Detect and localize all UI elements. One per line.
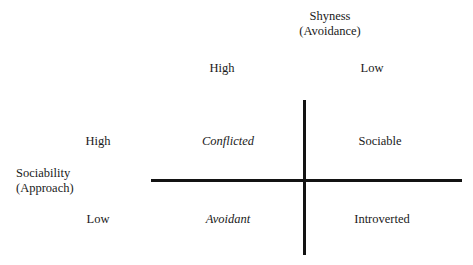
shyness-level-high-label: High [210, 61, 235, 76]
shyness-axis-title: Shyness (Avoidance) [250, 9, 410, 39]
sociability-level-high-label: High [86, 134, 111, 149]
sociability-axis-title-line-1: Sociability [16, 166, 146, 181]
horizontal-axis-line [151, 179, 462, 182]
sociability-axis-title: Sociability (Approach) [16, 166, 146, 196]
shyness-level-low-label: Low [361, 61, 384, 76]
quadrant-label-sociable: Sociable [358, 134, 401, 149]
quadrant-label-conflicted: Conflicted [202, 134, 254, 149]
shyness-axis-title-line-1: Shyness [250, 9, 410, 24]
sociability-axis-title-line-2: (Approach) [16, 181, 146, 196]
quadrant-label-avoidant: Avoidant [206, 212, 250, 227]
shyness-axis-title-line-2: (Avoidance) [250, 24, 410, 39]
shyness-sociability-quadrant-figure: Shyness (Avoidance) High Low Sociability… [0, 0, 473, 265]
vertical-axis-line [303, 100, 306, 255]
sociability-level-low-label: Low [87, 212, 110, 227]
quadrant-label-introverted: Introverted [354, 212, 410, 227]
